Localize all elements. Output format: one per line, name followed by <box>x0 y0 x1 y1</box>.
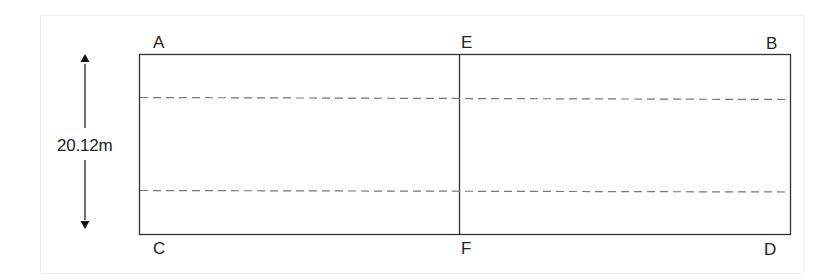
point-label-b: B <box>766 35 777 52</box>
point-label-d: D <box>764 241 776 258</box>
upper-dashed-line <box>140 98 788 100</box>
arrow-down-icon <box>81 221 90 229</box>
point-label-c: C <box>153 240 165 257</box>
arrow-up-icon <box>81 54 90 62</box>
pitch-rectangle <box>140 55 791 235</box>
lower-dashed-line <box>140 191 788 193</box>
point-label-e: E <box>461 34 472 51</box>
point-label-f: F <box>461 240 471 257</box>
point-label-a: A <box>153 34 164 51</box>
dimension-label: 20.12m <box>57 137 113 154</box>
pitch-diagram <box>0 0 837 280</box>
